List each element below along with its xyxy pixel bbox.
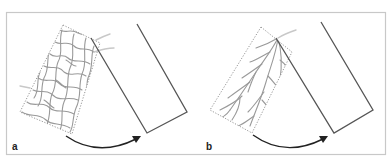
panel-label-a: a xyxy=(12,141,18,152)
panel-b: b xyxy=(206,22,373,152)
vessel-stub xyxy=(96,34,110,40)
vessel-stub xyxy=(20,86,30,88)
rotation-arrow xyxy=(66,136,136,148)
rotation-arrow xyxy=(253,135,323,148)
panel-a: a xyxy=(12,24,187,152)
arrow-head xyxy=(132,136,141,143)
figure: a b xyxy=(0,0,392,164)
vessel-pedicle xyxy=(278,30,296,38)
defect-outline xyxy=(91,24,187,133)
panel-label-b: b xyxy=(206,141,212,152)
arrow-head xyxy=(319,136,328,143)
vascular-network-random xyxy=(22,30,96,132)
defect-outline xyxy=(276,22,373,133)
